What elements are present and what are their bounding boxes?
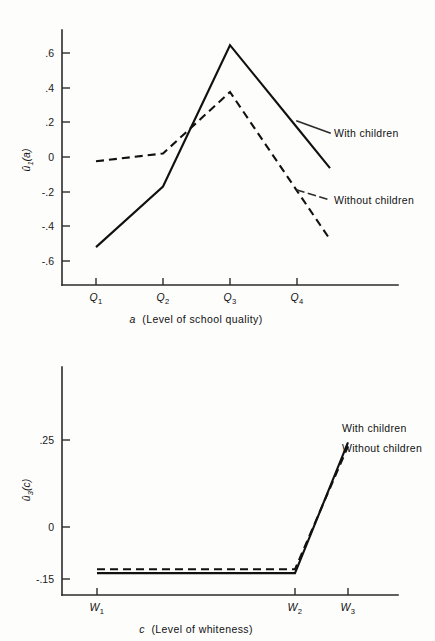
x-tick-label: W2 (288, 601, 303, 616)
x-tick-label: Q4 (290, 291, 303, 306)
x-tick-label-base: Q (290, 291, 299, 303)
chart-utility-whiteness: .25 0 -.15 û3(c) W1 W2 (0, 330, 435, 641)
x-tick-label: Q3 (223, 291, 236, 306)
y-tick-label: 0 (48, 151, 54, 163)
y-tick-label: .25 (39, 434, 54, 446)
chart-top-svg: .6 .4 .2 0 -.2 -.4 -.6 û1(a) Q1 (0, 0, 435, 330)
x-tick-label-sub: 2 (298, 607, 303, 616)
y-tick-group (62, 440, 70, 579)
x-tick-label-base: Q (89, 291, 98, 303)
x-tick-group (97, 588, 348, 595)
x-axis-title-text: (Level of whiteness) (151, 623, 252, 635)
figure-page: .6 .4 .2 0 -.2 -.4 -.6 û1(a) Q1 (0, 0, 435, 641)
chart-utility-school-quality: .6 .4 .2 0 -.2 -.4 -.6 û1(a) Q1 (0, 0, 435, 330)
x-tick-label-base: Q (156, 291, 165, 303)
series-line-with-children (96, 45, 330, 247)
x-axis-title: c (Level of whiteness) (139, 623, 253, 635)
x-tick-label-sub: 3 (232, 297, 237, 306)
x-tick-label-sub: 4 (299, 297, 304, 306)
y-tick-label: -.2 (42, 186, 54, 198)
y-tick-label: -.4 (42, 220, 54, 232)
x-tick-group (96, 278, 297, 285)
x-tick-label-sub: 3 (351, 607, 356, 616)
series-label-without-children: Without children (342, 442, 422, 454)
x-axis-title: a (Level of school quality) (129, 313, 262, 325)
y-axis-title: û1(a) (20, 149, 35, 172)
y-tick-label: .4 (45, 82, 54, 94)
x-axis-title-text: (Level of school quality) (142, 313, 262, 325)
y-axis-title: û3(c) (20, 479, 35, 501)
y-axis-title-tail: (c) (20, 479, 32, 491)
svg-text:û1(a): û1(a) (20, 149, 35, 172)
series-label-without-children: Without children (334, 194, 414, 206)
chart-bottom-svg: .25 0 -.15 û3(c) W1 W2 (0, 330, 435, 641)
series-label-with-children: With children (342, 422, 407, 434)
series-line-with-children (97, 442, 348, 573)
x-tick-label: W1 (90, 601, 105, 616)
x-tick-label: Q1 (89, 291, 102, 306)
series-label-with-children: With children (334, 127, 399, 139)
x-tick-label: W3 (341, 601, 356, 616)
x-tick-label-base: Q (223, 291, 232, 303)
x-tick-label-sub: 2 (165, 297, 170, 306)
y-tick-group (62, 53, 70, 261)
y-axis-title-tail: (a) (20, 149, 32, 162)
y-tick-label: .6 (45, 47, 54, 59)
x-tick-label-sub: 1 (98, 297, 103, 306)
svg-text:û3(c): û3(c) (20, 479, 35, 501)
y-tick-label: -.6 (42, 255, 54, 267)
y-tick-label: -.15 (36, 573, 54, 585)
x-tick-label-sub: 1 (100, 607, 105, 616)
series-line-without-children (96, 92, 330, 240)
leader-line-with-children (297, 121, 330, 133)
x-tick-label: Q2 (156, 291, 169, 306)
y-tick-label: .2 (45, 116, 54, 128)
y-tick-label: 0 (48, 521, 54, 533)
series-line-without-children (97, 446, 348, 569)
